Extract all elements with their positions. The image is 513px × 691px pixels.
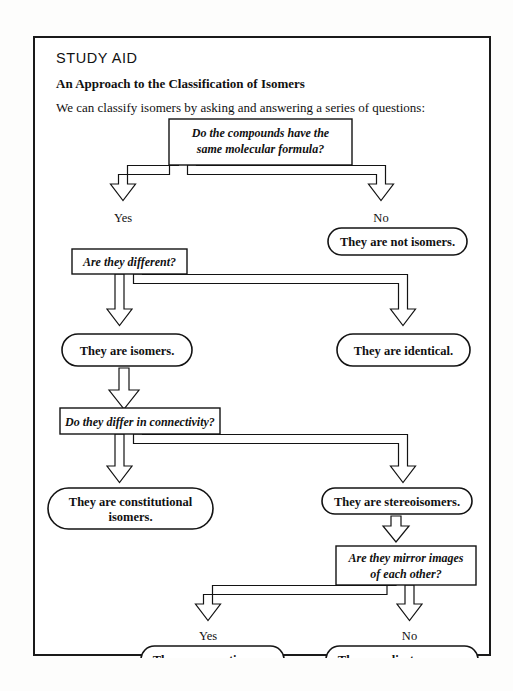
label-no-level1: No <box>373 211 388 225</box>
edge-q1-no-pipe <box>188 165 394 201</box>
label-no-level4: No <box>402 629 417 643</box>
node-q3-text: Do they differ in connectivity? <box>64 415 215 429</box>
edge-q4-yes-pipe <box>196 585 397 621</box>
node-a6-answer-oval: They are enantiomers. <box>141 646 284 658</box>
node-a7-text: They are diastereomers. <box>338 653 466 658</box>
node-a4-line1: They are constitutional <box>69 495 193 509</box>
edge-q3-no-pipe <box>134 434 416 483</box>
node-q3-question-box: Do they differ in connectivity? <box>60 408 220 434</box>
node-a3-text: They are identical. <box>354 344 453 358</box>
edge-q3-yes-pipe <box>107 434 132 483</box>
edge-a2-to-q3-arrow <box>109 368 139 409</box>
study-aid-frame: STUDY AID An Approach to the Classificat… <box>33 36 491 656</box>
node-q4-line2: of each other? <box>370 567 441 581</box>
node-q1-question-box: Do the compounds have the same molecular… <box>169 119 352 165</box>
edge-q4-no-pipe <box>397 585 422 621</box>
node-a1-text: They are not isomers. <box>340 235 455 249</box>
node-q2-question-box: Are they different? <box>72 249 187 274</box>
label-yes-level4: Yes <box>199 629 217 643</box>
isomer-classification-flowchart: Do the compounds have the same molecular… <box>35 38 493 658</box>
edge-q1-yes-pipe <box>111 165 179 201</box>
node-q4-line1: Are they mirror images <box>347 551 463 565</box>
edge-q2-yes-pipe <box>107 274 132 326</box>
node-a5-answer-oval: They are stereoisomers. <box>322 488 472 514</box>
node-q4-question-box: Are they mirror images of each other? <box>336 546 476 585</box>
node-a2-answer-oval: They are isomers. <box>62 334 192 366</box>
node-a5-text: They are stereoisomers. <box>334 495 460 509</box>
node-a2-text: They are isomers. <box>80 344 175 358</box>
label-yes-level1: Yes <box>114 211 132 225</box>
node-a7-answer-oval: They are diastereomers. <box>326 646 478 658</box>
page-canvas: STUDY AID An Approach to the Classificat… <box>0 0 513 691</box>
node-a6-text: They are enantiomers. <box>153 653 273 658</box>
node-a1-answer-oval: They are not isomers. <box>328 228 467 255</box>
node-q1-line2: same molecular formula? <box>196 142 324 156</box>
node-a4-line2: isomers. <box>108 510 152 524</box>
node-a4-answer-oval: They are constitutional isomers. <box>48 488 213 529</box>
edge-a5-to-q4-arrow <box>383 516 409 542</box>
node-a3-answer-oval: They are identical. <box>337 334 470 366</box>
node-q1-line1: Do the compounds have the <box>191 126 330 140</box>
node-q2-text: Are they different? <box>82 255 176 269</box>
edge-q2-no-pipe <box>134 274 416 326</box>
